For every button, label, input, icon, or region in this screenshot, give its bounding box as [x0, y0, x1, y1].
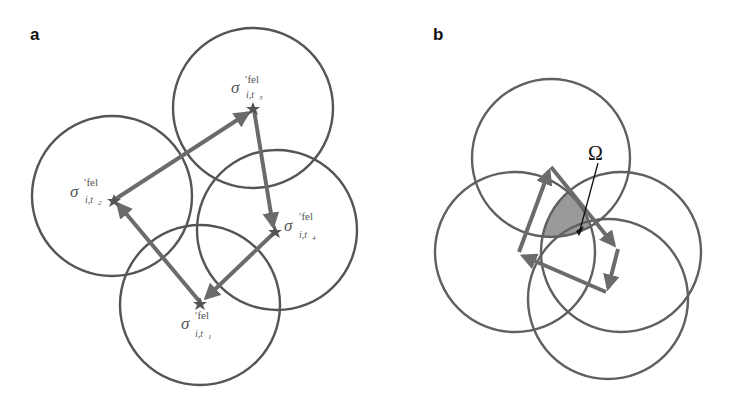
sigma-superscript: ′fel [299, 210, 313, 222]
panel-b: b Ω [433, 25, 701, 379]
star-markers-a [107, 102, 282, 310]
sigma-symbol: σ [284, 216, 293, 235]
circle-left [435, 172, 595, 332]
arrow-t4-to-t1 [206, 232, 275, 298]
sigma-subscript: i,t [299, 229, 307, 240]
sigma-subsubscript: 4 [312, 234, 316, 242]
panel-label-b: b [433, 25, 443, 44]
label-sigma-t4: σ ′fel i,t 4 [284, 210, 316, 242]
arrow-right-to-bottom [608, 249, 618, 288]
tolerance-circles-b [435, 79, 701, 379]
sigma-superscript: ′fel [245, 73, 259, 85]
trajectory-arrows-a [114, 110, 275, 302]
sigma-symbol: σ [231, 78, 240, 97]
omega-label: Ω [588, 142, 603, 164]
sigma-subscript: i,t [246, 89, 254, 100]
sigma-subsubscript: 3 [258, 94, 263, 102]
figure-canvas: a σ ′fel i,t 3 σ ′fel [0, 0, 734, 406]
circle-t2 [32, 116, 192, 276]
sigma-subscript: i,t [85, 194, 93, 205]
arrow-t3-to-t4 [254, 110, 273, 226]
arrow-left-to-top [519, 171, 549, 252]
sigma-subsubscript: 1 [208, 333, 212, 341]
label-sigma-t1: σ ′fel i,t 1 [181, 309, 212, 341]
sigma-subscript: i,t [195, 328, 203, 339]
sigma-superscript: ′fel [84, 176, 98, 188]
sigma-symbol: σ [181, 314, 190, 333]
sigma-superscript: ′fel [195, 309, 209, 321]
circle-bottom [528, 219, 688, 379]
panel-a: a σ ′fel i,t 3 σ ′fel [30, 25, 357, 385]
sigma-subsubscript: 2 [98, 199, 102, 207]
label-sigma-t3: σ ′fel i,t 3 [231, 73, 263, 102]
arrow-t2-to-t3 [114, 113, 248, 200]
figure-svg: a σ ′fel i,t 3 σ ′fel [0, 0, 734, 406]
panel-label-a: a [30, 25, 40, 44]
label-sigma-t2: σ ′fel i,t 2 [70, 176, 102, 207]
sigma-symbol: σ [70, 182, 79, 201]
